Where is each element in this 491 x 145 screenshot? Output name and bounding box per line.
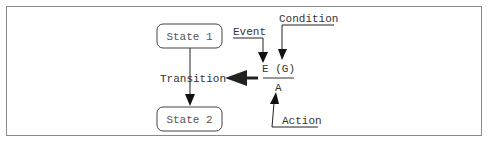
condition-leader-arrow <box>278 25 334 60</box>
state-transition-diagram: State 1 State 2 Transition E (G) A Event… <box>0 0 491 145</box>
event-guard-notation: E (G) <box>262 63 295 75</box>
event-leader-arrow <box>233 38 268 63</box>
action-annotation-label: Action <box>282 115 322 127</box>
state-1-node: State 1 <box>157 24 222 48</box>
transition-label: Transition <box>160 73 226 85</box>
state-2-label: State 2 <box>166 114 212 126</box>
state-1-label: State 1 <box>166 31 213 43</box>
event-annotation-label: Event <box>233 26 266 38</box>
pointer-arrow-icon <box>225 70 258 86</box>
condition-annotation-label: Condition <box>279 13 338 25</box>
state-2-node: State 2 <box>157 107 222 131</box>
